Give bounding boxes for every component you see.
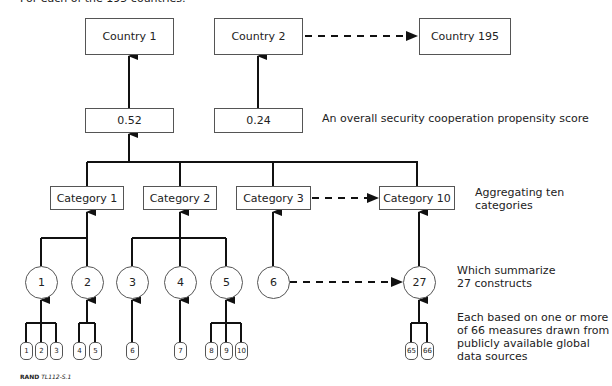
measure-annotation-line-3: publicly available global xyxy=(457,337,609,350)
measure-annotation-line-1: Each based on one or more xyxy=(457,311,609,324)
measure-annotation-line-4: data sources xyxy=(457,350,609,363)
measure-pill-8: 8 xyxy=(205,342,218,360)
measure-annotation-line-2: of 66 measures drawn from xyxy=(457,324,609,337)
category-annotation-line-2: categories xyxy=(475,199,564,212)
measure-annotation: Each based on one or more of 66 measures… xyxy=(457,311,609,363)
category-box-3: Category 3 xyxy=(236,186,311,210)
measure-pill-6: 6 xyxy=(126,342,139,360)
construct-annotation-line-2: 27 constructs xyxy=(457,277,555,290)
measure-pill-3: 3 xyxy=(50,342,63,360)
construct-annotation-line-1: Which summarize xyxy=(457,264,555,277)
score-box-country-1: 0.52 xyxy=(85,108,174,133)
category-box-10: Category 10 xyxy=(379,186,455,210)
measure-pill-66: 66 xyxy=(421,342,434,360)
figure-credit: RAND TL112-S.1 xyxy=(20,373,71,380)
measure-pill-9: 9 xyxy=(220,342,233,360)
country-box-195: Country 195 xyxy=(419,18,511,55)
construct-circle-3: 3 xyxy=(116,266,149,299)
category-box-2: Category 2 xyxy=(143,186,217,210)
category-annotation-line-1: Aggregating ten xyxy=(475,186,564,199)
construct-circle-6: 6 xyxy=(257,266,290,299)
score-annotation: An overall security cooperation propensi… xyxy=(322,112,589,125)
measure-pill-65: 65 xyxy=(405,342,418,360)
construct-circle-5: 5 xyxy=(210,266,243,299)
construct-circle-1: 1 xyxy=(25,266,58,299)
country-box-2: Country 2 xyxy=(214,18,303,55)
construct-circle-2: 2 xyxy=(71,266,104,299)
country-box-1: Country 1 xyxy=(85,18,174,55)
category-annotation: Aggregating ten categories xyxy=(475,186,564,212)
credit-org: RAND xyxy=(20,373,39,380)
construct-circle-27: 27 xyxy=(403,266,436,299)
measure-pill-4: 4 xyxy=(73,342,86,360)
construct-circle-4: 4 xyxy=(164,266,197,299)
credit-id: TL112-S.1 xyxy=(41,373,71,380)
measure-pill-10: 10 xyxy=(235,342,248,360)
measure-pill-7: 7 xyxy=(174,342,187,360)
diagram-header: For each of the 195 countries: xyxy=(20,0,186,5)
measure-pill-5: 5 xyxy=(89,342,102,360)
construct-annotation: Which summarize 27 constructs xyxy=(457,264,555,290)
hierarchy-diagram: For each of the 195 countries: Country 1… xyxy=(0,0,612,386)
score-box-country-2: 0.24 xyxy=(214,108,303,133)
category-box-1: Category 1 xyxy=(50,186,124,210)
measure-pill-1: 1 xyxy=(20,342,33,360)
measure-pill-2: 2 xyxy=(35,342,48,360)
